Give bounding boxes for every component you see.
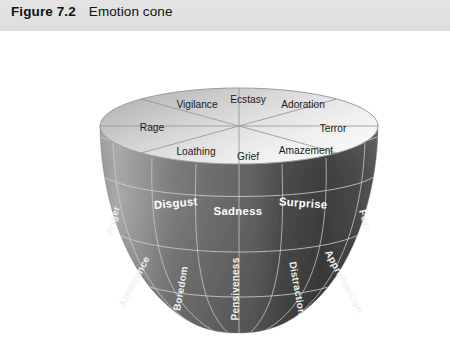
figure-header-band: Figure 7.2Emotion cone (0, 0, 450, 31)
lower-label-pensiveness: Pensiveness (230, 257, 241, 320)
emotion-cone-diagram: Anger Disgust Sadness Surprise Fear Anno… (0, 31, 450, 354)
lid-label-loathing: Loathing (176, 146, 215, 157)
lid-label-vigilance: Vigilance (176, 99, 217, 110)
lid-label-adoration: Adoration (281, 99, 325, 110)
lid-label-terror: Terror (320, 123, 347, 134)
lid-label-amazement: Amazement (279, 145, 334, 156)
figure-caption: Figure 7.2Emotion cone (11, 4, 173, 19)
cone-lid: Vigilance Ecstasy Adoration Rage Terror … (100, 88, 378, 164)
lid-label-ecstasy: Ecstasy (230, 94, 267, 105)
page-title: Emotion cone (89, 4, 173, 19)
figure-number: Figure 7.2 (11, 4, 76, 19)
cone-svg: Anger Disgust Sadness Surprise Fear Anno… (0, 31, 450, 354)
lid-label-rage: Rage (140, 122, 165, 133)
lid-label-grief: Grief (237, 151, 259, 162)
figure-root: Figure 7.2Emotion cone (0, 0, 450, 354)
band-label-sadness: Sadness (214, 205, 263, 217)
